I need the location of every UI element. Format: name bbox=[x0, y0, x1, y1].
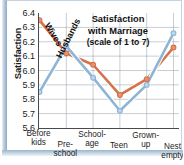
x-axis-tick-label: Nestempty bbox=[152, 142, 184, 160]
data-point-husbands bbox=[171, 31, 176, 36]
data-point-wives bbox=[171, 45, 176, 50]
data-point-husbands bbox=[144, 82, 149, 87]
chart-lines-svg bbox=[39, 13, 179, 128]
plot-area bbox=[38, 13, 179, 129]
x-axis-tick-label-line: school bbox=[44, 149, 86, 158]
y-axis-tick-label: 6.0 bbox=[9, 66, 35, 76]
y-axis-tick-label: 5.9 bbox=[9, 80, 35, 90]
y-axis-tick-label: 6.4 bbox=[9, 8, 35, 18]
x-axis-tick-label-line: empty bbox=[152, 151, 184, 160]
data-point-husbands bbox=[118, 108, 123, 113]
data-point-wives bbox=[118, 93, 123, 98]
data-point-wives bbox=[91, 62, 96, 67]
y-axis-tick-labels: 6.46.36.26.16.05.95.85.75.6 bbox=[9, 8, 35, 132]
data-point-wives bbox=[144, 77, 149, 82]
y-axis-tick-label: 6.2 bbox=[9, 37, 35, 47]
data-point-husbands bbox=[91, 75, 96, 80]
data-point-husbands bbox=[39, 90, 42, 95]
x-axis-tick-label-line: Nest bbox=[152, 142, 184, 151]
y-axis-tick-label: 6.3 bbox=[9, 22, 35, 32]
x-axis-tick-label-line: Grown- bbox=[125, 131, 167, 140]
x-axis-tick-label-line: Before bbox=[18, 129, 60, 138]
chart-figure: Satisfaction 6.46.36.26.16.05.95.85.75.6… bbox=[0, 0, 183, 165]
data-point-wives bbox=[39, 18, 42, 23]
x-axis-tick-label-line: School- bbox=[71, 130, 113, 139]
y-axis-tick-label: 6.1 bbox=[9, 51, 35, 61]
y-axis-tick-label: 5.7 bbox=[9, 109, 35, 119]
y-axis-tick-label: 5.8 bbox=[9, 94, 35, 104]
x-axis-tick-labels: BeforekidsPre-schoolSchool-ageTeenGrown-… bbox=[30, 129, 183, 153]
